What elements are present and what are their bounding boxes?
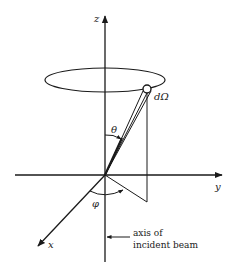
theta-arc bbox=[105, 135, 121, 139]
y-axis-label: y bbox=[214, 181, 221, 192]
solid-angle-label: dΩ bbox=[154, 91, 169, 102]
scattering-geometry-diagram: z y x θ φ dΩ axis of incident beam bbox=[0, 0, 233, 274]
theta-label: θ bbox=[111, 124, 117, 135]
annotation-line-1: axis of bbox=[133, 228, 163, 238]
z-axis-label: z bbox=[93, 13, 100, 24]
phi-label: φ bbox=[92, 198, 99, 209]
x-axis bbox=[38, 175, 105, 246]
solid-angle-element bbox=[143, 85, 151, 93]
phi-arc bbox=[90, 190, 123, 195]
x-axis-label: x bbox=[48, 239, 54, 250]
xy-projection-line bbox=[105, 175, 147, 202]
annotation-line-2: incident beam bbox=[133, 240, 198, 250]
